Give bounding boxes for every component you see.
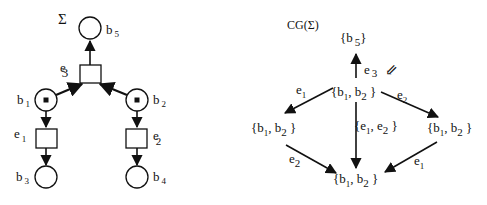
place-circle <box>35 166 57 188</box>
svg-text:b3: b3 <box>16 169 30 186</box>
node-right: {b1, b2 } <box>427 120 472 138</box>
node-bottom: {b1, b2 } <box>333 171 378 189</box>
place-circle <box>79 17 101 39</box>
edge-label-e2-bottom-left: e2 <box>289 151 300 169</box>
case-graph: CG(Σ) {b5} {b1, b2 } {b1, b2 } {b1, b2 }… <box>251 18 472 189</box>
svg-text:e3: e3 <box>60 60 68 80</box>
place-b3: b3 <box>16 166 57 188</box>
token-icon <box>135 98 140 103</box>
place-b2: b2 <box>126 89 166 111</box>
edge-label-e1-e2: {e1, e2 } <box>354 118 398 136</box>
svg-text:b5: b5 <box>106 22 120 39</box>
net-title: Σ <box>58 11 67 27</box>
transition-box <box>36 129 57 148</box>
transition-box <box>126 129 147 148</box>
edge-label-e3: e3 <box>364 62 378 79</box>
petri-net: Σ b5 b1 b2 b3 b4 <box>14 11 167 188</box>
node-top: {b5} <box>340 30 367 48</box>
token-icon <box>44 98 49 103</box>
step-marker-icon: ⇙ <box>385 62 398 78</box>
transition-e1: e1 <box>14 126 57 148</box>
edge-center-right <box>381 92 438 117</box>
edge-label-e2-right: e2 <box>397 87 407 105</box>
transition-box <box>80 65 101 83</box>
svg-text:b2: b2 <box>153 92 166 109</box>
svg-text:e1: e1 <box>14 126 26 144</box>
svg-text:b4: b4 <box>153 169 167 186</box>
edge-label-e1-left: e1 <box>296 82 306 100</box>
place-b4: b4 <box>126 166 167 188</box>
transition-e3: e3 <box>60 60 101 83</box>
place-circle <box>126 166 148 188</box>
edge-center-left <box>285 88 333 113</box>
transition-e2: e2 <box>126 128 161 148</box>
graph-title: CG(Σ) <box>287 18 319 32</box>
figure: Σ b5 b1 b2 b3 b4 <box>0 0 487 205</box>
place-b5: b5 <box>79 17 120 39</box>
arc-b1-e3 <box>56 84 82 95</box>
arc-b2-e3 <box>100 84 127 95</box>
edge-label-e1-bottom-right: e1 <box>414 153 424 171</box>
place-b1: b1 <box>17 89 57 111</box>
svg-text:e2: e2 <box>153 128 161 147</box>
edge-right-bottom <box>385 142 437 172</box>
svg-text:b1: b1 <box>17 92 30 109</box>
node-center: {b1, b2 } <box>331 84 376 102</box>
node-left: {b1, b2 } <box>251 120 296 138</box>
